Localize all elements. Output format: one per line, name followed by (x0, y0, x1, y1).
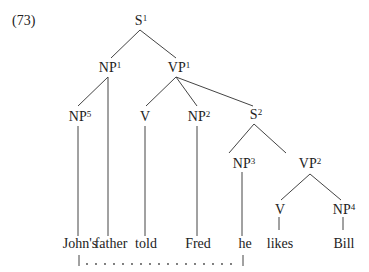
node-s2: S2 (250, 108, 262, 122)
node-s1: S1 (135, 14, 147, 28)
node-np4: NP4 (333, 203, 355, 217)
node-v2: V (275, 203, 285, 217)
node-np2: NP2 (188, 110, 210, 124)
node-vp1: VP1 (168, 61, 190, 75)
leaf-father: father (95, 237, 128, 251)
leaf-told: told (135, 237, 157, 251)
leaf-bill: Bill (333, 237, 354, 251)
coreference-dots (86, 263, 232, 265)
leaf-fred: Fred (185, 237, 211, 251)
leaf-johns: John's (63, 237, 97, 251)
node-np1: NP1 (99, 61, 121, 75)
node-vp2: VP2 (299, 157, 321, 171)
node-v1: V (140, 110, 150, 124)
leaf-likes: likes (267, 237, 293, 251)
tree-edges (0, 0, 369, 272)
leaf-he: he (238, 237, 251, 251)
node-np5: NP5 (69, 110, 91, 124)
node-np3: NP3 (233, 157, 255, 171)
